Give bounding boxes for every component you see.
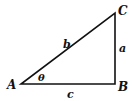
right-triangle-diagram: A B C b a c θ: [0, 0, 138, 101]
angle-label-theta: θ: [38, 72, 45, 83]
side-label-a: a: [119, 42, 126, 55]
side-label-b: b: [63, 38, 71, 51]
vertex-label-c: C: [118, 4, 128, 18]
vertex-label-b: B: [117, 80, 128, 94]
vertex-label-a: A: [6, 78, 16, 92]
side-label-c: c: [67, 88, 74, 101]
